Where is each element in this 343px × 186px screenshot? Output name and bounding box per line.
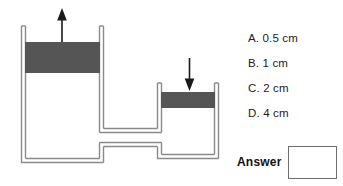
- option-c[interactable]: C. 2 cm: [248, 82, 289, 95]
- option-b[interactable]: B. 1 cm: [248, 57, 288, 70]
- answer-row: Answer: [237, 146, 343, 182]
- right-piston: [161, 92, 215, 108]
- left-piston: [25, 42, 100, 73]
- answer-input-box[interactable]: [288, 146, 337, 179]
- hydraulic-press-diagram: [0, 0, 240, 186]
- up-arrow-icon: [57, 8, 67, 42]
- down-arrow-icon: [185, 58, 195, 91]
- option-a[interactable]: A. 0.5 cm: [248, 32, 298, 45]
- diagram-svg: [0, 0, 240, 186]
- connecting-tube: [100, 129, 162, 147]
- option-d[interactable]: D. 4 cm: [248, 107, 289, 120]
- answer-label: Answer: [237, 155, 282, 169]
- worksheet-page: A. 0.5 cm B. 1 cm C. 2 cm D. 4 cm Answer: [0, 0, 343, 186]
